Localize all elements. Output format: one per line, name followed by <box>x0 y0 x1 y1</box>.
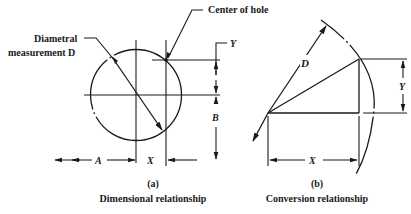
diameter-label-1: Diametral <box>34 33 78 44</box>
panel-a-caption: Dimensional relationship <box>100 193 207 204</box>
center-of-hole-label: Center of hole <box>208 4 269 15</box>
diagram-canvas: Diametral measurement D Center of hole Y… <box>0 0 411 214</box>
panel-b-tag: (b) <box>311 178 323 190</box>
y-label-b: Y <box>399 81 406 92</box>
diameter-leader <box>84 38 116 62</box>
diameter-line <box>112 57 162 130</box>
x-label-b: X <box>308 155 316 166</box>
panel-a-tag: (a) <box>147 178 159 190</box>
x-label-a: X <box>146 155 154 166</box>
center-leader <box>168 10 203 58</box>
circle-arc <box>321 20 374 176</box>
y-label-a: Y <box>230 38 237 49</box>
panel-b-caption: Conversion relationship <box>266 193 369 204</box>
panel-b: D Y X (b) Conversion relationship <box>253 20 407 204</box>
d-line-lower <box>253 113 268 141</box>
b-label: B <box>211 112 219 123</box>
panel-a: Diametral measurement D Center of hole Y… <box>8 4 269 204</box>
a-label: A <box>94 155 102 166</box>
d-label: D <box>300 57 309 69</box>
diameter-label-2: measurement D <box>8 47 75 58</box>
y-reference-line <box>216 43 227 75</box>
d-line-upper <box>268 26 326 113</box>
